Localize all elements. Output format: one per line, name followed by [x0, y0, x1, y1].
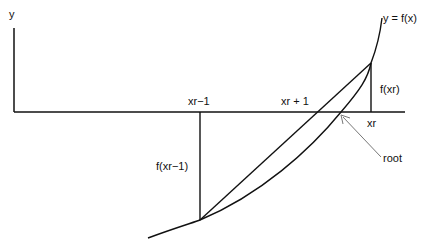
f-xr-label: f(xr)	[380, 83, 400, 95]
x-next-label: xr + 1	[281, 95, 309, 107]
root-label: root	[383, 152, 402, 164]
x-prev-label: xr−1	[188, 95, 210, 107]
function-curve	[148, 18, 382, 238]
curve-label: y = f(x)	[383, 12, 417, 24]
f-xr-prev-label: f(xr−1)	[156, 160, 188, 172]
secant-method-diagram: y y = f(x) xr−1 xr + 1 xr f(xr) f(xr−1) …	[0, 0, 421, 245]
xr-label: xr	[367, 117, 377, 129]
y-axis-label: y	[9, 8, 15, 20]
secant-line	[200, 63, 371, 220]
